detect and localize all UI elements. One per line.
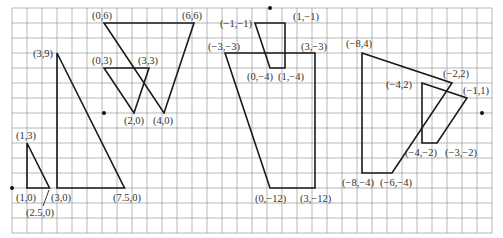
label-0-neg4: (0,−4) xyxy=(247,71,274,83)
label-0-6: (0,6) xyxy=(92,10,113,22)
origin-dot-upper xyxy=(102,111,106,115)
label-1-neg4: (1,−4) xyxy=(278,71,305,83)
small-triangle-1-3 xyxy=(27,143,50,188)
pointer-arrow-2.5 xyxy=(43,190,49,206)
origin-dot-left xyxy=(10,186,14,190)
small-inverted-triangle xyxy=(104,68,149,113)
small-trapezoid xyxy=(255,23,285,68)
label-neg1-neg1: (−1,−1) xyxy=(220,18,252,30)
label-6-6: (6,6) xyxy=(182,10,203,22)
label-1-3: (1,3) xyxy=(16,130,37,142)
coordinate-grid-diagram: (1,3) (1,0) (2.5,0) (3,0) (3,9) (7.5,0) … xyxy=(0,0,503,238)
label-2-0: (2,0) xyxy=(124,115,145,127)
label-neg4-2: (−4,2) xyxy=(386,79,413,91)
label-2.5-0: (2.5,0) xyxy=(26,207,54,219)
label-1-0: (1,0) xyxy=(16,192,37,204)
origin-dot-middle xyxy=(268,6,272,10)
label-7.5-0: (7.5,0) xyxy=(113,192,141,204)
label-neg8-4: (−8,4) xyxy=(346,38,373,50)
label-neg2-2: (−2,2) xyxy=(443,68,470,80)
label-neg6-neg4: (−6,−4) xyxy=(380,177,412,189)
label-neg8-neg4: (−8,−4) xyxy=(342,177,374,189)
graph-paper-grid xyxy=(12,8,492,233)
label-neg3-neg3: (−3,−3) xyxy=(208,41,240,53)
origin-dot-right xyxy=(480,111,484,115)
label-0-neg12: (0,−12) xyxy=(255,193,287,205)
label-0-3: (0,3) xyxy=(92,55,113,67)
label-neg4-neg2: (−4,−2) xyxy=(405,147,437,159)
label-1-neg1: (1,−1) xyxy=(293,11,320,23)
label-3-3: (3,3) xyxy=(138,55,159,67)
label-3-9: (3,9) xyxy=(33,48,54,60)
label-neg1-1: (−1,1) xyxy=(463,85,490,97)
large-triangle-3-9 xyxy=(57,53,125,188)
label-3-neg3: (3,−3) xyxy=(301,41,328,53)
label-neg3-neg2: (−3,−2) xyxy=(445,147,477,159)
label-3-neg12: (3,−12) xyxy=(300,193,332,205)
label-3-0: (3,0) xyxy=(51,192,72,204)
label-4-0: (4,0) xyxy=(153,115,174,127)
